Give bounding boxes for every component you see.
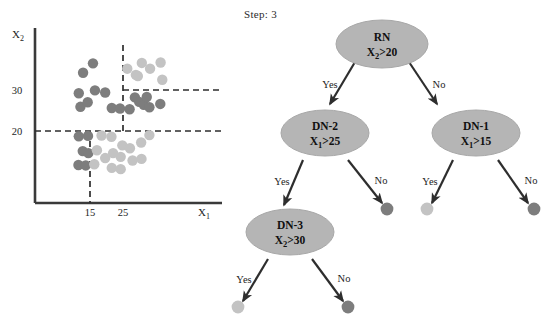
edge-label-dn3-yes: Yes [236,274,251,285]
scatter-point-class-light [122,63,132,73]
node-ellipse[interactable] [432,110,520,156]
scatter-point-class-light [157,75,167,85]
scatter-point-class-light [133,71,143,81]
scatter-point-class-dark [82,97,92,107]
scatter-point-class-light [125,143,135,153]
tree-node-dn2[interactable]: DN-2 X1>25 [281,110,369,156]
scatter-point-class-light [96,130,106,140]
scatter-point-class-dark [88,58,98,68]
x-axis-title-var: X [198,206,206,218]
edge-label-dn1-no: No [525,175,538,186]
node-ellipse[interactable] [246,209,334,255]
node-ellipse[interactable] [281,110,369,156]
leaf-node-dark[interactable] [342,301,355,314]
scatter-point-class-light [115,152,125,162]
node-ellipse[interactable] [336,20,428,68]
scatter-point-class-dark [74,88,84,98]
scatter-point-class-light [107,163,117,173]
edge-label-dn2-yes: Yes [274,176,289,187]
cond-op-dn3: >30 [287,234,305,246]
edge-label-dn3-no: No [338,273,351,284]
node-label: DN-2 [312,120,338,132]
node-label: DN-1 [463,120,489,132]
x-axis-title: X1 [198,206,210,221]
scatter-point-class-light [106,132,116,142]
leaf-node-light[interactable] [232,301,245,314]
scatter-point-class-light [92,145,102,155]
scatter-point-class-dark [155,99,165,109]
scatter-point-class-dark [142,92,152,102]
edge-label-dn1-yes: Yes [422,176,437,187]
edge-label-dn2-no: No [375,175,388,186]
tree-node-dn1[interactable]: DN-1 X1>15 [432,110,520,156]
scatter-point-class-light [115,164,125,174]
edge-dn1-leaf-no [498,160,528,203]
y-tick-30: 30 [12,85,23,96]
scatter-point-class-light [127,155,137,165]
scatter-point-class-light [155,57,165,67]
node-label: RN [374,31,391,43]
tree-node-rn[interactable]: RN X2>20 [336,20,428,68]
leaf-node-dark[interactable] [381,203,394,216]
y-axis-title: X2 [12,28,24,43]
scatter-point-class-light [144,130,154,140]
scatter-point-class-dark [100,87,110,97]
x-tick-25: 25 [118,207,129,218]
x-axis-title-sub: 1 [206,212,210,221]
decision-tree: Yes No Yes No Yes No Yes No RN X2>20 DN-… [232,20,541,313]
scatter-point-class-dark [124,104,134,114]
scatter-point-class-light [145,63,155,73]
cond-op-dn1: >15 [473,135,491,147]
scatter-plot: X2 X1 30 20 15 25 [12,28,222,221]
scatter-point-class-dark [74,131,84,141]
cond-op-rn: >20 [379,46,397,58]
scatter-point-class-light [136,137,146,147]
scatter-point-class-light [136,154,146,164]
scatter-point-class-light [89,159,99,169]
leaf-node-light[interactable] [421,203,434,216]
tree-node-dn3[interactable]: DN-3 X2>30 [246,209,334,255]
scatter-point-class-dark [115,103,125,113]
cond-op-dn2: >25 [322,135,340,147]
scatter-point-class-dark [90,85,100,95]
edge-label-rn-yes: Yes [322,79,337,90]
scatter-point-class-dark [78,68,88,78]
node-label: DN-3 [277,219,303,231]
scatter-points [73,57,167,174]
leaf-node-dark[interactable] [528,203,541,216]
scatter-point-class-dark [144,102,154,112]
x-tick-15: 15 [85,207,96,218]
scatter-point-class-dark [83,131,93,141]
edge-label-rn-no: No [433,79,446,90]
y-tick-20: 20 [12,126,23,137]
y-axis-title-var: X [12,28,20,40]
y-axis-title-sub: 2 [20,34,24,43]
step-label: Step: 3 [244,8,277,20]
figure-svg: X2 X1 30 20 15 25 [0,0,556,320]
figure-canvas: Step: 3 X2 X1 30 20 15 25 [0,0,556,320]
